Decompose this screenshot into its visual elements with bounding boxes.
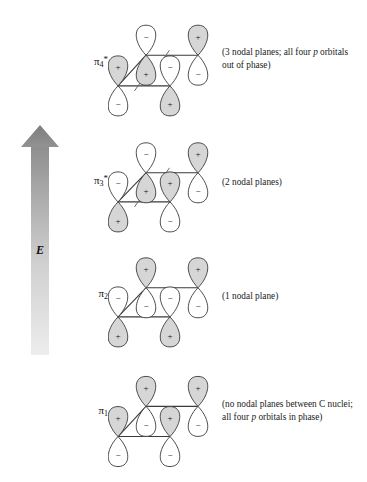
orbital-svg-pi3-star: −++−−++− <box>108 128 216 240</box>
orbital-diagram-pi4-star: −++−+−−+ <box>108 8 216 126</box>
p-orbital-back-right-bottom-sign: − <box>195 420 200 430</box>
orbital-label-pi3-star: π3* <box>74 173 108 188</box>
p-orbital-front-left-bottom-sign: + <box>115 331 120 341</box>
p-orbital-front-right-top-sign: + <box>167 413 172 423</box>
orbital-svg-pi2: +−+−−+−+ <box>108 243 216 355</box>
orbital-svg-pi4-star: −++−+−−+ <box>108 8 216 126</box>
p-orbital-back-right-top-sign: + <box>195 149 200 159</box>
p-orbital-front-right-top-sign: + <box>167 178 172 188</box>
p-orbital-front-right-bottom-sign: + <box>167 331 172 341</box>
p-orbital-front-left-bottom-sign: + <box>115 216 120 226</box>
p-orbital-back-left-top-sign: + <box>143 383 148 393</box>
orbital-diagram-pi2: +−+−−+−+ <box>108 243 216 355</box>
orbital-caption-pi1: (no nodal planes between C nuclei; all f… <box>222 398 354 424</box>
orbital-row-pi3-star: π3* −++−−++− (2 nodal planes) <box>0 128 367 240</box>
p-orbital-back-left-top-sign: + <box>143 264 148 274</box>
p-orbital-front-left-bottom-sign: − <box>115 450 120 460</box>
p-orbital-front-left-top-sign: − <box>115 178 120 188</box>
p-orbital-back-right-top-sign: + <box>195 264 200 274</box>
p-orbital-back-left-bottom-sign: + <box>143 69 148 79</box>
p-orbital-back-right-bottom-sign: − <box>195 186 200 196</box>
p-orbital-back-right-top-sign: + <box>195 32 200 42</box>
molecular-orbital-figure: E π4* −++−+−−+ (3 nodal planes; all four… <box>0 0 367 482</box>
p-orbital-back-left-bottom-sign: + <box>143 186 148 196</box>
orbital-caption-pi2: (1 nodal plane) <box>222 290 354 303</box>
p-orbital-front-right-bottom-sign: + <box>167 99 172 109</box>
p-orbital-back-left-top-sign: − <box>143 32 148 42</box>
orbital-caption-pi3-star: (2 nodal planes) <box>222 176 354 189</box>
p-orbital-front-right-top-sign: − <box>167 293 172 303</box>
orbital-caption-pi4-star: (3 nodal planes; all four p orbitals out… <box>222 46 354 72</box>
p-orbital-back-left-top-sign: − <box>143 149 148 159</box>
orbital-diagram-pi1: +−+−+−+− <box>108 360 216 476</box>
orbital-label-pi1: π1 <box>74 404 108 418</box>
p-orbital-front-left-top-sign: − <box>115 293 120 303</box>
orbital-svg-pi1: +−+−+−+− <box>108 360 216 476</box>
p-orbital-front-right-bottom-sign: − <box>167 450 172 460</box>
p-orbital-back-right-top-sign: + <box>195 383 200 393</box>
p-orbital-front-right-top-sign: − <box>167 62 172 72</box>
p-orbital-back-right-bottom-sign: − <box>195 69 200 79</box>
orbital-row-pi1: π1 +−+−+−+− (no nodal planes between C n… <box>0 360 367 476</box>
orbital-label-pi2: π2 <box>74 287 108 301</box>
orbital-row-pi2: π2 +−+−−+−+ (1 nodal plane) <box>0 243 367 355</box>
p-orbital-front-left-bottom-sign: − <box>115 99 120 109</box>
p-orbital-front-left-top-sign: + <box>115 413 120 423</box>
orbital-diagram-pi3-star: −++−−++− <box>108 128 216 240</box>
p-orbital-back-left-bottom-sign: − <box>143 301 148 311</box>
p-orbital-back-left-bottom-sign: − <box>143 420 148 430</box>
p-orbital-front-left-top-sign: + <box>115 62 120 72</box>
orbital-label-pi4-star: π4* <box>74 54 108 69</box>
orbital-row-pi4-star: π4* −++−+−−+ (3 nodal planes; all four p… <box>0 8 367 126</box>
p-orbital-front-right-bottom-sign: − <box>167 216 172 226</box>
p-orbital-back-right-bottom-sign: − <box>195 301 200 311</box>
